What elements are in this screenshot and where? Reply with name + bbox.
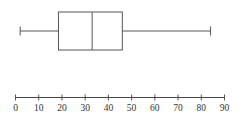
tick-label: 50 xyxy=(127,103,137,113)
box-plot xyxy=(20,12,210,50)
box-plot-chart: 0102030405060708090 xyxy=(0,0,247,129)
x-axis: 0102030405060708090 xyxy=(13,95,229,114)
tick-label: 30 xyxy=(80,103,90,113)
tick-label: 40 xyxy=(104,103,114,113)
tick-label: 20 xyxy=(57,103,67,113)
tick-label: 60 xyxy=(150,103,160,113)
tick-label: 90 xyxy=(220,103,230,113)
tick-label: 80 xyxy=(197,103,207,113)
tick-label: 0 xyxy=(13,103,18,113)
iqr-box xyxy=(58,12,122,50)
tick-label: 70 xyxy=(173,103,183,113)
tick-label: 10 xyxy=(34,103,44,113)
